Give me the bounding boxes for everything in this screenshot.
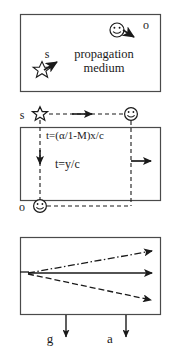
panel-bottom: g a	[20, 238, 161, 347]
smiley-face-icon	[34, 200, 47, 213]
label-a: a	[107, 331, 113, 346]
medium-label-line2: medium	[84, 61, 125, 75]
formula-vertical: t=y/c	[55, 157, 80, 171]
observer-label-middle: o	[19, 200, 25, 214]
figure-container: propagation medium s o	[0, 0, 177, 363]
source-label-middle: s	[20, 108, 25, 122]
formula-horizontal: t=(α/1-M)x/c	[46, 129, 104, 142]
smiley-face-icon	[125, 108, 138, 121]
source-label-top: s	[45, 47, 50, 61]
observer-label-top: o	[143, 18, 149, 32]
panel-top: propagation medium s o	[21, 15, 161, 92]
diagram-svg: propagation medium s o	[0, 0, 177, 363]
medium-label-line1: propagation	[74, 47, 134, 61]
smiley-face-icon	[110, 23, 124, 37]
panel-bottom-border	[21, 238, 161, 315]
panel-middle: s t=(α/1-M)x/c	[19, 107, 161, 214]
star-icon	[33, 107, 48, 120]
label-g: g	[47, 331, 54, 346]
